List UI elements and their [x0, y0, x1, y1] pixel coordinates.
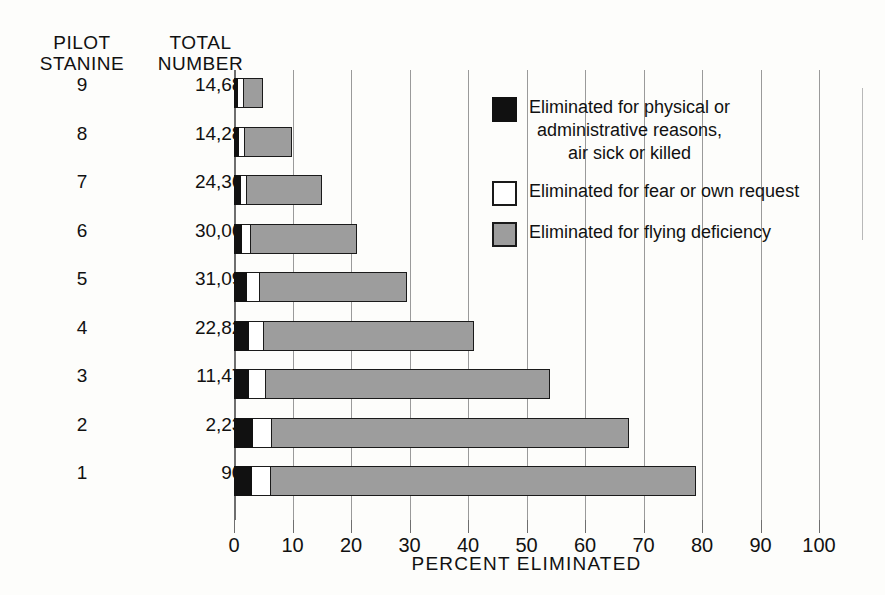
row-stanine-label: 6 — [22, 208, 142, 254]
bar-segment-physical-admin — [234, 272, 247, 302]
legend-swatch-black-icon — [492, 97, 517, 122]
bar-segment-flying-deficiency — [271, 466, 696, 496]
x-tick-0 — [234, 520, 235, 533]
x-tick-70 — [644, 520, 645, 533]
bar-segment-fear-own-request — [249, 321, 264, 351]
bar-stanine-2 — [234, 418, 629, 448]
legend-label: Eliminated for fear or own request — [529, 180, 799, 203]
row-stanine-label: 8 — [22, 111, 142, 157]
x-tick-20 — [351, 520, 352, 533]
bar-segment-flying-deficiency — [247, 175, 321, 205]
x-tick-50 — [527, 520, 528, 533]
legend-item-white[interactable]: Eliminated for fear or own request — [492, 180, 877, 206]
bar-stanine-4 — [234, 321, 474, 351]
bar-stanine-5 — [234, 272, 407, 302]
x-tick-90 — [761, 520, 762, 533]
gridline-30 — [410, 70, 411, 520]
bar-segment-physical-admin — [234, 175, 241, 205]
row-stanine-label: 5 — [22, 256, 142, 302]
x-axis-title: PERCENT ELIMINATED — [234, 553, 819, 575]
bar-segment-flying-deficiency — [244, 78, 263, 108]
bar-segment-fear-own-request — [252, 466, 271, 496]
bar-segment-fear-own-request — [253, 418, 272, 448]
bar-segment-physical-admin — [234, 466, 252, 496]
bar-segment-fear-own-request — [249, 369, 266, 399]
bar-segment-flying-deficiency — [272, 418, 629, 448]
row-stanine-label: 1 — [22, 450, 142, 496]
legend-swatch-gray-icon — [492, 222, 517, 247]
legend-divider — [862, 88, 863, 240]
bar-segment-physical-admin — [234, 321, 249, 351]
bar-segment-fear-own-request — [247, 272, 260, 302]
bar-segment-physical-admin — [234, 369, 249, 399]
bar-stanine-1 — [234, 466, 696, 496]
row-stanine-label: 9 — [22, 62, 142, 108]
bar-segment-physical-admin — [234, 224, 242, 254]
bar-segment-flying-deficiency — [266, 369, 550, 399]
bar-stanine-6 — [234, 224, 357, 254]
bar-segment-fear-own-request — [242, 224, 251, 254]
bar-segment-flying-deficiency — [245, 127, 292, 157]
bar-stanine-8 — [234, 127, 292, 157]
chart-container: PILOT STANINE TOTAL NUMBER 914,682814,28… — [0, 0, 885, 595]
bar-segment-flying-deficiency — [251, 224, 357, 254]
gridline-40 — [468, 70, 469, 520]
x-tick-80 — [702, 520, 703, 533]
bar-stanine-3 — [234, 369, 550, 399]
bar-segment-flying-deficiency — [260, 272, 406, 302]
bar-segment-physical-admin — [234, 418, 253, 448]
row-stanine-label: 7 — [22, 159, 142, 205]
bar-stanine-9 — [234, 78, 263, 108]
x-axis: 0102030405060708090100 — [234, 520, 819, 534]
legend-item-gray[interactable]: Eliminated for flying deficiency — [492, 221, 877, 247]
legend-swatch-white-icon — [492, 181, 517, 206]
x-tick-60 — [585, 520, 586, 533]
bar-stanine-7 — [234, 175, 322, 205]
bar-segment-flying-deficiency — [264, 321, 474, 351]
x-tick-100 — [819, 520, 820, 533]
x-tick-40 — [468, 520, 469, 533]
legend-label: Eliminated for physical or administrativ… — [529, 96, 730, 165]
x-tick-30 — [410, 520, 411, 533]
x-tick-10 — [293, 520, 294, 533]
row-stanine-label: 4 — [22, 305, 142, 351]
row-stanine-label: 2 — [22, 402, 142, 448]
legend-label: Eliminated for flying deficiency — [529, 221, 771, 244]
legend: Eliminated for physical or administrativ… — [492, 96, 877, 262]
legend-item-black[interactable]: Eliminated for physical or administrativ… — [492, 96, 877, 165]
row-stanine-label: 3 — [22, 353, 142, 399]
